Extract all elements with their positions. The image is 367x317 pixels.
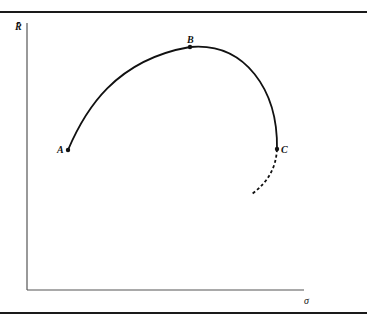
point-a-label: A [57,145,64,155]
diagram-canvas [0,0,367,317]
point-a-marker [66,148,70,152]
point-c-marker [275,147,279,151]
y-axis-label: R̄ [15,22,22,32]
point-b-label: B [187,35,194,45]
frontier-dashed-extension [252,149,277,194]
x-axis-label: σ [304,296,309,306]
frontier-curve [68,47,277,150]
point-b-marker [188,45,192,49]
point-c-label: C [281,145,288,155]
